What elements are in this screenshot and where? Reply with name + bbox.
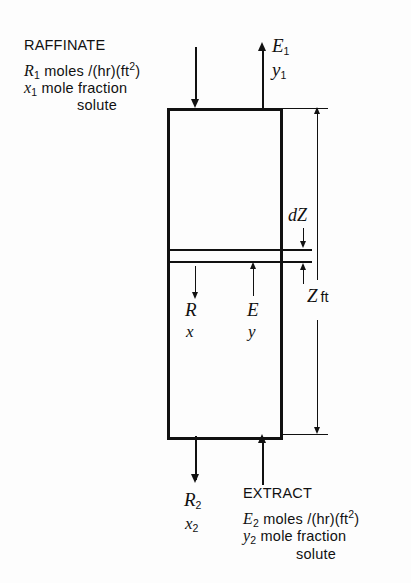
dz-arrow-down-head [300,241,306,248]
extraction-column-diagram: RAFFINATE R1 moles /(hr)(ft2) x1 mole fr… [0,0,411,583]
height-dimension-line-upper [317,112,318,280]
extract-flow-units-tail: ) [354,511,359,527]
extract-label: EXTRACT [243,484,312,503]
extract-inlet-arrowhead [258,434,266,443]
extract-flow-symbol: E [243,510,253,527]
extract-outlet-line [262,48,264,110]
raffinate-bottom-flow-label: R2 [184,490,201,515]
extract-inlet-line [262,440,264,485]
height-extension-line-bottom [280,434,328,435]
height-dimension-line-lower [317,320,318,428]
extract-solute-text: solute [296,545,336,564]
differential-d-symbol: d [288,205,297,225]
raffinate-bottom-flow-subscript: 2 [196,499,202,511]
column-height-symbol: Z [307,285,318,306]
raffinate-flow-units: moles /(hr)(ft [40,63,129,79]
interior-extract-line [253,268,254,296]
raffinate-bottom-flow-symbol: R [184,489,196,510]
dz-arrow-up-line [303,270,304,284]
interior-raffinate-composition-label: x [186,322,194,342]
raffinate-composition-text: mole fraction [37,80,127,96]
interior-raffinate-arrowhead [192,292,198,299]
raffinate-solute-text: solute [77,96,117,115]
height-dimension-arrowhead-top [314,107,320,114]
slice-line-upper [167,249,312,251]
extract-top-composition-label: y1 [272,60,286,85]
differential-height-label: dZ [288,205,307,225]
raffinate-label: RAFFINATE [24,36,105,55]
extract-top-composition-subscript: 1 [280,69,286,81]
raffinate-bottom-composition-label: x2 [185,514,198,538]
raffinate-flow-units-tail: ) [135,63,140,79]
extract-composition-text: mole fraction [256,528,346,544]
raffinate-outlet-arrowhead [191,474,199,483]
extract-outlet-arrowhead [258,42,266,51]
height-extension-line-top [280,108,328,109]
raffinate-flow-symbol: R [24,62,34,79]
column-height-units: ft [321,289,329,305]
height-dimension-arrowhead-bottom [314,427,320,434]
slice-line-lower [167,261,312,263]
extract-top-flow-symbol: E [272,35,284,56]
column-body [167,108,283,440]
extract-top-flow-label: E1 [272,36,289,61]
column-height-label: Zft [307,286,329,307]
raffinate-bottom-composition-subscript: 2 [193,522,199,534]
interior-extract-arrowhead [250,262,256,269]
interior-extract-composition-label: y [248,322,256,342]
raffinate-inlet-arrowhead [191,99,199,108]
extract-top-flow-subscript: 1 [284,45,290,57]
interior-extract-flow-label: E [247,300,259,320]
interior-raffinate-flow-label: R [185,300,197,320]
extract-flow-units: moles /(hr)(ft [259,511,348,527]
dz-arrow-down-line [303,228,304,242]
raffinate-inlet-line [195,47,197,102]
dz-arrow-up-head [300,263,306,270]
raffinate-bottom-composition-symbol: x [185,514,193,533]
differential-z-symbol: Z [297,205,307,225]
interior-raffinate-line [195,266,196,294]
